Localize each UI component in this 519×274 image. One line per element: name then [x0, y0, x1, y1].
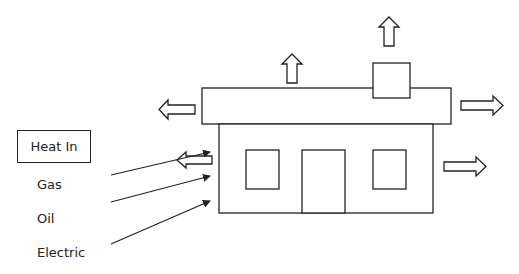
roof — [202, 88, 451, 124]
heat-in-box: Heat In — [17, 130, 91, 163]
chimney — [373, 63, 410, 98]
right-window — [373, 150, 406, 189]
electric-input-arrow — [111, 201, 210, 244]
left-arrow-icon — [159, 100, 195, 119]
door — [302, 150, 345, 213]
oil-input-arrow — [111, 176, 210, 202]
left-arrow-icon — [177, 152, 212, 168]
right-arrow-icon — [461, 96, 503, 115]
up-arrow-icon — [379, 17, 399, 46]
heat-in-label: Heat In — [30, 139, 77, 154]
left-window — [246, 150, 279, 189]
up-arrow-icon — [282, 54, 302, 83]
right-arrow-icon — [444, 157, 486, 176]
gas-label: Gas — [37, 177, 62, 192]
oil-label: Oil — [37, 211, 54, 226]
electric-label: Electric — [37, 245, 85, 260]
